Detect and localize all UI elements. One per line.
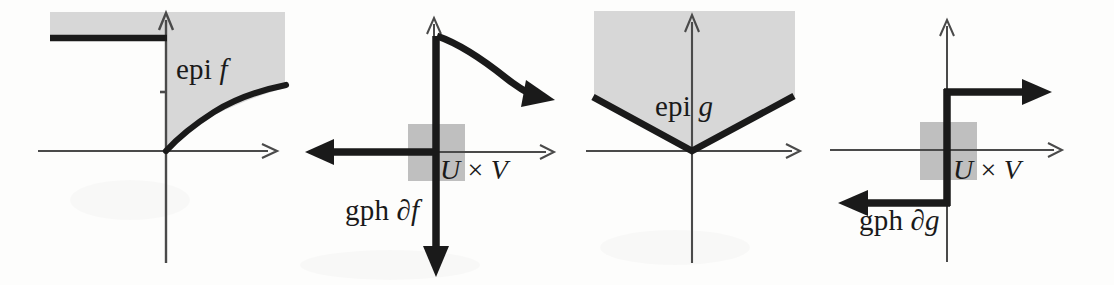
label-gph-partial-g-symbol: ∂g (911, 204, 940, 236)
gph-dg-diagram (820, 0, 1114, 285)
subdifferential-upper-ray (944, 79, 1052, 105)
epi-f-shaded-region (50, 12, 285, 151)
label-epi-g: epi g (655, 92, 713, 121)
label-gph-partial-f: gph ∂f (345, 196, 419, 225)
label-u-cross-v-2-v: V (1004, 154, 1021, 185)
label-epi-g-symbol: g (698, 90, 713, 122)
label-u-cross-v-2-u: U (953, 154, 973, 185)
label-u-cross-v-2-times: × (973, 154, 1003, 185)
panel-epigraph-of-g (560, 0, 820, 285)
label-epi-f-symbol: f (219, 53, 227, 85)
epi-g-diagram (560, 0, 820, 285)
label-epi-f-prefix: epi (176, 53, 219, 85)
label-u-cross-v-1-v: V (491, 154, 508, 185)
label-u-cross-v-1-u: U (440, 154, 460, 185)
label-gph-partial-g-prefix: gph (859, 204, 911, 236)
panel-epigraph-of-f (0, 0, 300, 285)
epi-g-shaded-region (594, 11, 795, 151)
label-epi-f: epi f (176, 55, 228, 84)
figure-epigraphs-and-subgradient-graphs: epi f U × V gph ∂f epi g U × V gph ∂g (0, 0, 1114, 285)
label-u-cross-v-1: U × V (440, 156, 508, 184)
label-epi-g-prefix: epi (655, 90, 698, 122)
label-gph-partial-f-symbol: ∂f (397, 194, 420, 226)
label-u-cross-v-1-times: × (460, 154, 490, 185)
epi-f-diagram (0, 0, 300, 285)
label-u-cross-v-2: U × V (953, 156, 1021, 184)
panel-graph-of-subdifferential-f (300, 0, 560, 285)
label-gph-partial-g: gph ∂g (859, 206, 940, 235)
label-gph-partial-f-prefix: gph (345, 194, 397, 226)
gph-df-diagram (300, 0, 560, 285)
x-axis (38, 144, 277, 158)
subdifferential-decreasing-curve (437, 36, 555, 107)
panel-graph-of-subdifferential-g (820, 0, 1114, 285)
